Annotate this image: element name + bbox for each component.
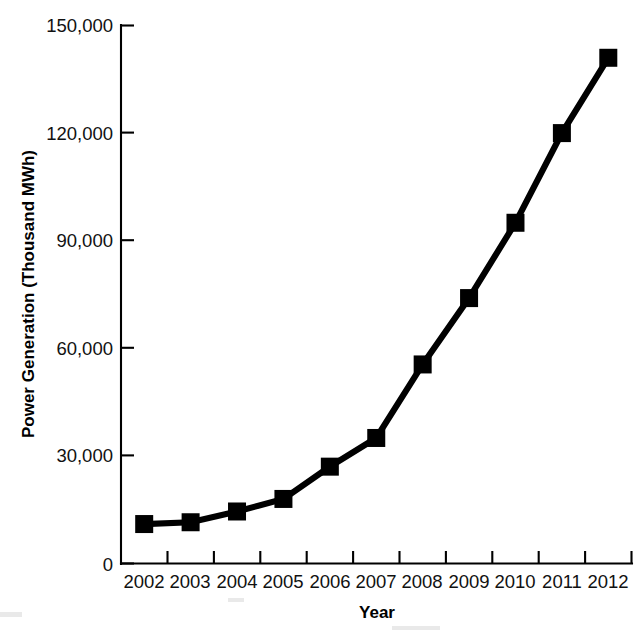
x-tick-label-2003: 2003 (169, 571, 210, 592)
data-point-2006 (321, 458, 339, 476)
chart-background (0, 0, 635, 633)
x-tick-label-2011: 2011 (542, 571, 582, 592)
scan-artifact (392, 626, 440, 630)
x-tick-label-2010: 2010 (494, 571, 535, 592)
x-tick-label-2009: 2009 (448, 571, 489, 592)
y-tick-label-120000: 120,000 (46, 123, 113, 144)
x-tick-label-2004: 2004 (216, 571, 257, 592)
y-tick-label-150000: 150,000 (46, 15, 113, 36)
chart-canvas: 0 30,000 60,000 90,000 120,000 150,000 P… (0, 0, 635, 633)
y-tick-label-90000: 90,000 (56, 230, 113, 251)
x-tick-label-2006: 2006 (309, 571, 350, 592)
x-tick-label-2008: 2008 (401, 571, 442, 592)
x-tick-label-2002: 2002 (123, 571, 164, 592)
y-tick-label-60000: 60,000 (56, 338, 113, 359)
y-axis-title: Power Generation (Thousand MWh) (19, 150, 38, 438)
scan-artifact (0, 612, 22, 617)
scan-artifact (228, 598, 244, 602)
data-point-2002 (135, 515, 153, 533)
x-tick-label-2007: 2007 (355, 571, 396, 592)
y-tick-label-0: 0 (103, 554, 113, 575)
data-point-2009 (460, 289, 478, 307)
data-point-2012 (599, 49, 617, 67)
x-tick-label-2005: 2005 (262, 571, 303, 592)
data-point-2008 (414, 355, 432, 373)
data-point-2003 (182, 513, 200, 531)
data-point-2005 (274, 490, 292, 508)
data-point-2010 (506, 214, 524, 232)
x-axis-title: Year (359, 603, 395, 622)
data-point-2007 (367, 429, 385, 447)
x-tick-label-2012: 2012 (587, 571, 628, 592)
y-tick-label-30000: 30,000 (56, 445, 113, 466)
line-chart-figure: 0 30,000 60,000 90,000 120,000 150,000 P… (0, 0, 635, 633)
data-point-2004 (228, 502, 246, 520)
data-point-2011 (553, 124, 571, 142)
